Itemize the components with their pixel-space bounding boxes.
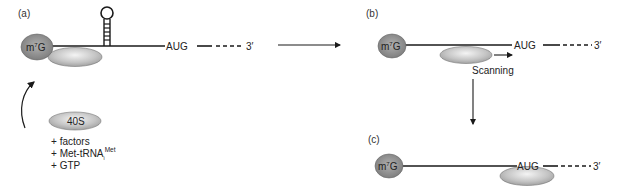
panel-a: (a) m7G AUG 3′ 40S + factors + Met-tR [18, 7, 254, 171]
scanning-model-diagram: (a) m7G AUG 3′ 40S + factors + Met-tR [0, 0, 618, 192]
three-prime-end: 3′ [593, 161, 601, 172]
panel-c: (c) m7G AUG 3′ [368, 134, 601, 186]
three-prime-end: 3′ [594, 40, 602, 51]
panel-b: (b) m7G Scanning AUG 3′ [366, 8, 602, 76]
addition-gtp: + GTP [51, 160, 81, 171]
three-prime-end: 3′ [246, 41, 254, 52]
panel-b-label: (b) [366, 8, 378, 19]
scanning-label: Scanning [472, 65, 514, 76]
hairpin-stem-loop-icon [101, 7, 113, 46]
start-codon-aug: AUG [514, 40, 536, 51]
start-codon-aug: AUG [517, 161, 539, 172]
40s-label: 40S [67, 116, 85, 127]
panel-a-label: (a) [18, 8, 30, 19]
scanning-40s-ellipse [440, 47, 492, 64]
start-codon-aug: AUG [166, 41, 188, 52]
addition-factors: + factors [51, 136, 90, 147]
ribosome-40s-ellipse [48, 48, 102, 67]
panel-c-label: (c) [368, 134, 380, 145]
recruitment-arrow-icon [22, 82, 34, 128]
addition-met-trna: + Met-tRNAiMet [51, 146, 116, 161]
